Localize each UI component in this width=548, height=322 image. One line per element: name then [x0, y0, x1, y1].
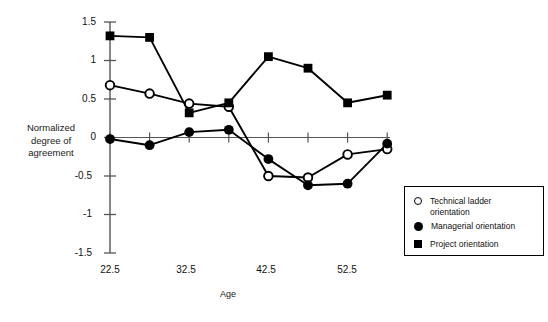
data-point-filled-square [185, 108, 194, 117]
data-point-filled-square [383, 91, 392, 100]
legend-label-line-2: orientation [430, 207, 470, 217]
data-point-filled-square [304, 64, 313, 73]
plot-area [0, 0, 548, 322]
data-point-open-circle [264, 172, 273, 181]
filled-square-icon [414, 240, 422, 248]
data-point-filled-circle [343, 179, 353, 189]
data-point-filled-circle [105, 134, 115, 144]
data-point-filled-circle [303, 180, 313, 190]
data-point-filled-circle [382, 139, 392, 149]
legend-item-project[interactable]: Project orientation [414, 239, 499, 250]
data-point-filled-square [145, 33, 154, 42]
legend-label-line-1: Technical ladder [430, 196, 491, 206]
data-point-filled-circle [224, 125, 234, 135]
data-point-open-circle [106, 81, 115, 90]
data-point-open-circle [145, 89, 154, 98]
legend-item-managerial[interactable]: Managerial orientation [414, 221, 515, 232]
data-point-filled-circle [145, 140, 155, 150]
data-point-filled-circle [184, 127, 194, 137]
data-point-filled-square [224, 98, 233, 107]
chart-figure: Normalized degree of agreement 1.5 1 0.5… [0, 0, 548, 322]
data-point-filled-square [106, 31, 115, 40]
series-group [105, 31, 392, 190]
legend: Technical ladder orientation Managerial … [404, 186, 544, 256]
legend-item-technical-ladder[interactable]: Technical ladder orientation [414, 196, 491, 217]
legend-label-technical-ladder: Technical ladder orientation [430, 196, 491, 217]
open-circle-icon [414, 197, 422, 205]
data-point-filled-square [343, 98, 352, 107]
data-point-open-circle [343, 150, 352, 159]
data-point-open-circle [185, 99, 194, 108]
legend-label-managerial: Managerial orientation [431, 221, 515, 232]
data-point-filled-circle [264, 154, 274, 164]
filled-circle-icon [414, 222, 423, 231]
data-point-filled-square [264, 52, 273, 61]
legend-label-project: Project orientation [430, 239, 499, 250]
